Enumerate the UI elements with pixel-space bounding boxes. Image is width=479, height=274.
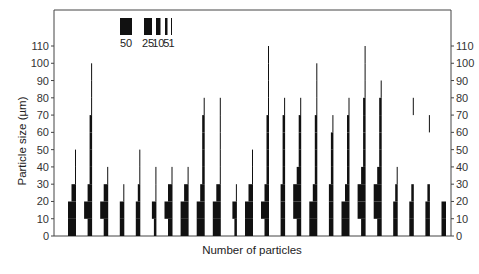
left-tick-label: 70 [37,109,49,121]
legend-label-50: 50 [120,37,132,49]
histogram-h17 [329,115,334,236]
histogram-bar [379,132,382,149]
histogram-bar [361,219,366,236]
histogram-bar [397,167,398,184]
histogram-h4 [120,184,125,236]
histogram-bar [281,184,286,201]
histogram-bar [377,167,382,184]
legend-swatch-5 [165,18,168,35]
histogram-bar [252,150,253,167]
right-tick-label: 100 [456,57,474,69]
histogram-bar [358,184,366,201]
left-tick-label: 100 [31,57,49,69]
left-tick-label: 60 [37,126,49,138]
histogram-bar [139,150,140,167]
legend-label-1: 1 [168,37,174,49]
histogram-bar [236,184,237,201]
histogram-bar [220,98,221,115]
histogram-bar [379,98,382,115]
histogram-bar [283,132,286,149]
legend-swatch-10 [156,18,161,35]
left-y-axis: 0102030405060708090100110 [31,40,54,242]
histogram-bar [379,150,382,167]
histogram-bar [75,167,76,184]
histogram-bar [393,202,398,219]
left-tick-label: 50 [37,144,49,156]
histogram-bar [220,167,221,184]
histogram-h22 [409,98,414,236]
histogram-h19 [358,46,366,236]
histogram-bar [297,167,302,184]
histogram-bar [181,219,189,236]
histogram-bar [204,98,205,115]
histogram-bar [197,219,205,236]
histogram-bar [88,184,93,201]
histogram-bar [315,115,318,132]
histogram-bar [261,202,269,219]
histogram-h18 [342,98,350,236]
histogram-bar [297,219,302,236]
histogram-h10 [213,98,221,236]
histogram-bar [154,219,157,236]
right-tick-label: 70 [456,109,468,121]
histogram-bar [232,202,237,219]
histogram-bar [90,115,93,132]
histogram-bar [300,98,301,115]
histogram-bar [363,132,366,149]
histogram-bar [172,167,173,184]
histogram-bar [316,98,317,115]
histogram-bar [68,219,76,236]
left-tick-label: 40 [37,161,49,173]
histogram-bar [429,115,430,132]
histogram-bar [299,115,302,132]
histogram-bar [365,46,366,63]
left-tick-label: 90 [37,75,49,87]
histogram-bar [381,81,382,98]
histogram-bar [427,184,430,201]
histogram-bar [104,219,109,236]
histogram-bar [184,184,189,201]
histogram-bar [104,184,109,201]
histogram-bar [136,219,141,236]
histogram-bar [267,115,270,132]
histogram-bar [442,202,447,219]
histogram-bar [268,98,269,115]
histogram-bar [329,202,334,219]
histogram-bar [152,202,157,219]
x-axis-title: Number of particles [202,244,302,256]
histogram-bar [413,98,414,115]
histogram-bar [90,167,93,184]
histogram-bar [202,150,205,167]
histogram-bar [281,219,286,236]
histogram-bar [267,132,270,149]
histogram-bar [315,167,318,184]
histogram-bar [377,219,382,236]
histogram-bar [197,202,205,219]
histogram-bar [309,202,317,219]
histogram-bar [409,202,414,219]
histogram-bar [283,115,286,132]
right-y-axis: 0102030405060708090100110 [451,40,474,242]
right-tick-label: 50 [456,144,468,156]
histogram-bar [345,184,350,201]
histogram-bar [409,219,414,236]
histogram-h16 [309,63,317,236]
histogram-bar [379,115,382,132]
histogram-bar [138,184,141,201]
histogram-bar [329,184,334,201]
right-tick-label: 60 [456,126,468,138]
histogram-h3 [100,167,108,236]
histogram-bar [315,132,318,149]
histogram-h15 [293,98,301,236]
histogram-bar [155,184,156,201]
histogram-bar [284,98,285,115]
right-tick-label: 80 [456,92,468,104]
histogram-bar [425,219,430,236]
histogram-bar [281,202,286,219]
histogram-h6 [152,167,157,236]
histogram-bar [245,219,253,236]
legend-swatch-50 [120,18,132,35]
histogram-bar [309,219,317,236]
histogram-bar [181,202,189,219]
right-tick-label: 90 [456,75,468,87]
